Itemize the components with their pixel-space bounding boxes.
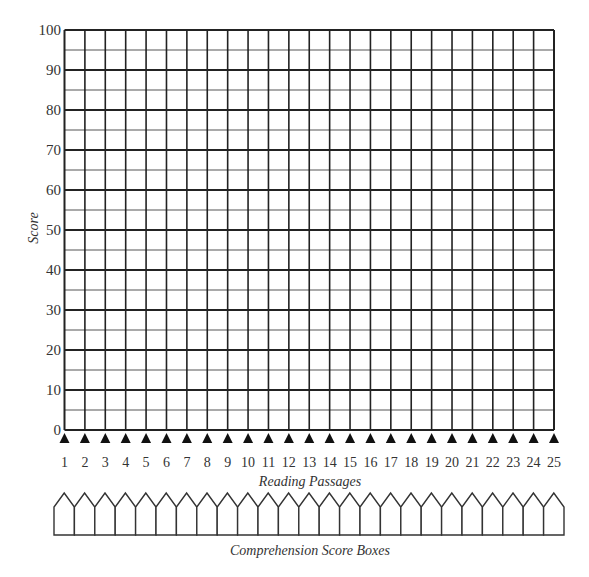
score-box[interactable]: [340, 493, 360, 535]
triangle-marker-icon: [345, 433, 355, 443]
triangle-marker-icon: [202, 433, 212, 443]
score-box[interactable]: [115, 493, 135, 535]
y-tick-label: 50: [46, 222, 61, 238]
x-tick-label: 22: [486, 455, 500, 470]
y-tick-label: 30: [46, 302, 61, 318]
score-box[interactable]: [217, 493, 237, 535]
triangle-marker-icon: [223, 433, 233, 443]
score-box[interactable]: [462, 493, 482, 535]
triangle-marker-icon: [182, 433, 192, 443]
triangle-marker-icon: [284, 433, 294, 443]
x-tick-label: 8: [204, 455, 211, 470]
score-box[interactable]: [95, 493, 115, 535]
x-tick-label: 6: [163, 455, 170, 470]
score-box[interactable]: [482, 493, 502, 535]
x-tick-label: 3: [102, 455, 109, 470]
score-box[interactable]: [156, 493, 176, 535]
score-box[interactable]: [278, 493, 298, 535]
triangle-marker-icon: [161, 433, 171, 443]
triangle-marker-icon: [365, 433, 375, 443]
x-tick-label: 24: [527, 455, 541, 470]
triangle-marker-icon: [121, 433, 131, 443]
y-tick-label: 90: [46, 62, 61, 78]
x-tick-label: 23: [506, 455, 520, 470]
score-box[interactable]: [74, 493, 94, 535]
x-axis-title: Reading Passages: [258, 474, 362, 489]
x-tick-label: 17: [384, 455, 398, 470]
x-tick-label: 25: [547, 455, 561, 470]
y-tick-label: 20: [46, 342, 61, 358]
x-tick-label: 18: [404, 455, 418, 470]
triangle-marker-icon: [60, 433, 70, 443]
score-box[interactable]: [544, 493, 564, 535]
score-box[interactable]: [136, 493, 156, 535]
x-tick-label: 9: [224, 455, 231, 470]
score-boxes-title: Comprehension Score Boxes: [230, 543, 390, 558]
triangle-marker-icon: [549, 433, 559, 443]
triangle-marker-icon: [488, 433, 498, 443]
y-tick-label: 40: [46, 262, 61, 278]
x-tick-label: 19: [425, 455, 439, 470]
x-tick-label: 14: [323, 455, 337, 470]
comprehension-score-boxes: [54, 493, 564, 535]
triangle-marker-icon: [447, 433, 457, 443]
x-tick-label: 15: [343, 455, 357, 470]
score-box[interactable]: [258, 493, 278, 535]
triangle-marker-icon: [100, 433, 110, 443]
y-tick-label: 0: [54, 422, 62, 438]
x-tick-label: 11: [262, 455, 275, 470]
triangle-marker-icon: [304, 433, 314, 443]
x-tick-label: 4: [122, 455, 129, 470]
y-tick-label: 70: [46, 142, 61, 158]
score-box[interactable]: [421, 493, 441, 535]
x-axis-ticks: 1234567891011121314151617181920212223242…: [61, 455, 561, 470]
x-tick-label: 16: [363, 455, 377, 470]
score-box[interactable]: [319, 493, 339, 535]
triangle-marker-icon: [529, 433, 539, 443]
triangle-marker-icon: [141, 433, 151, 443]
score-box[interactable]: [503, 493, 523, 535]
triangle-marker-icon: [406, 433, 416, 443]
triangle-marker-icon: [508, 433, 518, 443]
score-box[interactable]: [299, 493, 319, 535]
y-tick-label: 10: [46, 382, 61, 398]
triangle-marker-icon: [263, 433, 273, 443]
x-tick-label: 5: [143, 455, 150, 470]
passage-markers: [60, 433, 560, 443]
score-grid: [65, 30, 555, 430]
triangle-marker-icon: [80, 433, 90, 443]
triangle-marker-icon: [386, 433, 396, 443]
x-tick-label: 2: [81, 455, 88, 470]
y-tick-label: 80: [46, 102, 61, 118]
triangle-marker-icon: [467, 433, 477, 443]
y-tick-label: 60: [46, 182, 61, 198]
score-box[interactable]: [238, 493, 258, 535]
x-tick-label: 13: [302, 455, 316, 470]
score-box[interactable]: [380, 493, 400, 535]
y-axis-ticks: 0102030405060708090100: [39, 22, 62, 438]
score-box[interactable]: [523, 493, 543, 535]
progress-chart: 0102030405060708090100 Score 12345678910…: [0, 0, 589, 577]
x-tick-label: 10: [241, 455, 255, 470]
triangle-marker-icon: [243, 433, 253, 443]
x-tick-label: 21: [465, 455, 479, 470]
y-tick-label: 100: [39, 22, 62, 38]
score-box[interactable]: [176, 493, 196, 535]
score-box[interactable]: [54, 493, 74, 535]
x-tick-label: 12: [282, 455, 296, 470]
score-box[interactable]: [197, 493, 217, 535]
x-tick-label: 7: [183, 455, 190, 470]
score-box[interactable]: [401, 493, 421, 535]
y-axis-title: Score: [26, 212, 41, 243]
score-box[interactable]: [442, 493, 462, 535]
triangle-marker-icon: [325, 433, 335, 443]
score-box[interactable]: [360, 493, 380, 535]
x-tick-label: 1: [61, 455, 68, 470]
x-tick-label: 20: [445, 455, 459, 470]
triangle-marker-icon: [427, 433, 437, 443]
